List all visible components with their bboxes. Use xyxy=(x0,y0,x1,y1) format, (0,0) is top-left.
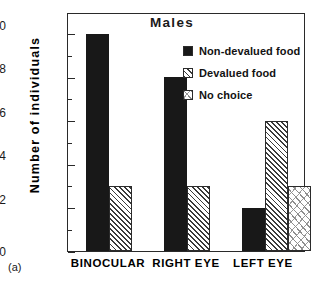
y-tick-major-4 xyxy=(68,165,75,166)
bar-left-eye-no-choice xyxy=(288,186,311,251)
y-tick-major-0 xyxy=(68,252,75,253)
legend: Non-devalued food Devalued food No choic… xyxy=(183,42,300,108)
y-tick-major-2 xyxy=(68,208,75,209)
y-tick-label-4: 4 xyxy=(0,149,6,163)
figure-panel-a: (a) Number of individuals 10 8 6 4 2 0 xyxy=(0,0,318,288)
y-tick-label-0: 0 xyxy=(0,245,6,259)
y-tick-minor-5 xyxy=(68,143,72,144)
y-tick-minor-3 xyxy=(68,186,72,187)
x-tick-label-right-eye: RIGHT EYE xyxy=(152,257,219,269)
legend-swatch-diagonal-hatch-icon xyxy=(183,68,193,78)
panel-label: (a) xyxy=(8,261,21,273)
legend-item-devalued-food: Devalued food xyxy=(183,64,300,81)
x-tick-label-left-eye: LEFT EYE xyxy=(233,257,293,269)
legend-label-no-choice: No choice xyxy=(199,89,252,101)
x-tick-label-binocular: BINOCULAR xyxy=(71,257,145,269)
bar-left-eye-devalued-food xyxy=(265,121,288,251)
legend-swatch-sparse-crosshatch-icon xyxy=(183,90,193,100)
y-tick-major-6 xyxy=(68,121,75,122)
y-tick-minor-1 xyxy=(68,230,72,231)
y-tick-label-2: 2 xyxy=(0,193,6,207)
bar-left-eye-non-devalued-food xyxy=(242,208,265,252)
bar-right-eye-devalued-food xyxy=(187,186,210,251)
y-tick-minor-9 xyxy=(68,56,72,57)
bar-binocular-non-devalued-food xyxy=(86,34,109,251)
y-tick-major-8 xyxy=(68,78,75,79)
y-tick-label-8: 8 xyxy=(0,62,6,76)
legend-item-non-devalued-food: Non-devalued food xyxy=(183,42,300,59)
y-tick-major-10 xyxy=(68,34,75,35)
legend-label-devalued-food: Devalued food xyxy=(199,67,276,79)
y-tick-label-10: 10 xyxy=(0,19,6,33)
chart-title: Males xyxy=(150,15,194,30)
bar-binocular-devalued-food xyxy=(109,186,132,251)
legend-item-no-choice: No choice xyxy=(183,86,300,103)
y-axis-title: Number of individuals xyxy=(28,0,42,230)
legend-label-non-devalued-food: Non-devalued food xyxy=(199,45,300,57)
legend-swatch-solid-black-icon xyxy=(183,46,193,56)
y-tick-minor-7 xyxy=(68,99,72,100)
y-tick-label-6: 6 xyxy=(0,106,6,120)
